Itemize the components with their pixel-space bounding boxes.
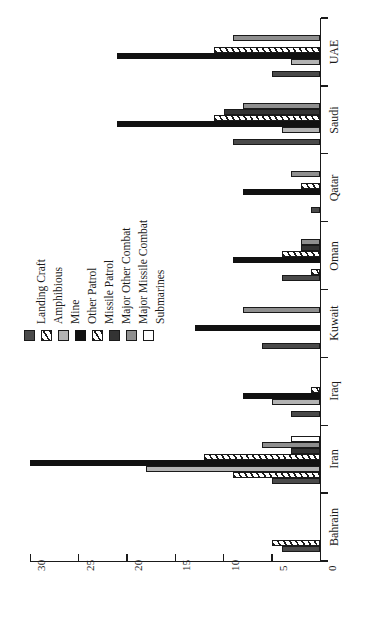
bar-saudi-mine	[282, 127, 321, 133]
bar-bahrain-amphibious	[272, 540, 320, 546]
category-label-uae: UAE	[326, 17, 342, 87]
value-tick-label: 10	[229, 560, 241, 571]
value-tick-label: 25	[84, 560, 96, 571]
category-label-oman: Oman	[326, 221, 342, 291]
value-tick	[126, 554, 127, 561]
bar-saudi-major-other-combat	[224, 109, 321, 115]
bar-oman-landing-craft	[282, 275, 321, 281]
bar-iran-major-other-combat	[291, 448, 320, 454]
bar-uae-major-missile-combat	[233, 35, 320, 41]
value-tick-label: 0	[326, 565, 338, 571]
bar-saudi-other-patrol	[117, 121, 320, 127]
chart-canvas: 302520151050 BahrainIranIraqKuwaitOmanQa…	[0, 0, 376, 626]
legend-label-missile-patrol: Missile Patrol	[103, 260, 115, 324]
bar-qatar-other-patrol	[243, 189, 320, 195]
value-tick	[78, 554, 79, 561]
bar-saudi-missile-patrol	[214, 115, 320, 121]
legend-label-submarines: Submarines	[154, 270, 166, 324]
value-tick-label: 15	[180, 560, 192, 571]
bar-bahrain-landing-craft	[282, 546, 321, 552]
value-tick	[30, 554, 31, 561]
bar-kuwait-major-missile-combat	[243, 307, 320, 313]
category-label-kuwait: Kuwait	[326, 288, 342, 358]
bar-iraq-mine	[272, 399, 320, 405]
bar-kuwait-landing-craft	[262, 343, 320, 349]
legend-swatch-major-missile-combat	[126, 330, 137, 341]
bar-oman-other-patrol	[233, 257, 320, 263]
bar-iraq-other-patrol	[243, 393, 320, 399]
value-tick-label: 20	[132, 560, 144, 571]
bar-oman-amphibious	[311, 269, 321, 275]
value-axis-line	[30, 561, 321, 562]
bar-qatar-missile-patrol	[301, 183, 320, 189]
bar-iran-other-patrol	[30, 460, 320, 466]
bar-iran-missile-patrol	[204, 454, 320, 460]
value-tick-label: 5	[277, 565, 289, 571]
bar-oman-missile-patrol	[282, 251, 321, 257]
legend-swatch-amphibious	[41, 330, 52, 341]
legend-label-major-other-combat: Major Other Combat	[120, 228, 132, 324]
bar-iran-mine	[146, 466, 320, 472]
bar-iran-submarines	[291, 436, 320, 442]
legend-label-mine: Mine	[69, 300, 81, 324]
legend-swatch-submarines	[143, 330, 154, 341]
bar-uae-mine	[291, 59, 320, 65]
legend-swatch-major-other-combat	[109, 330, 120, 341]
chart-legend: Landing CraftAmphibiousMineOther PatrolM…	[24, 222, 174, 352]
category-label-qatar: Qatar	[326, 153, 342, 223]
bar-iraq-missile-patrol	[311, 387, 321, 393]
legend-label-other-patrol: Other Patrol	[86, 267, 98, 324]
bar-uae-missile-patrol	[214, 47, 320, 53]
legend-swatch-missile-patrol	[92, 330, 103, 341]
bar-saudi-major-missile-combat	[243, 103, 320, 109]
bar-iran-major-missile-combat	[262, 442, 320, 448]
bar-kuwait-other-patrol	[195, 325, 321, 331]
category-label-saudi: Saudi	[326, 85, 342, 155]
legend-swatch-landing-craft	[24, 330, 35, 341]
bar-saudi-landing-craft	[233, 139, 320, 145]
bar-iran-amphibious	[233, 472, 320, 478]
legend-label-landing-craft: Landing Craft	[35, 259, 47, 324]
bar-uae-other-patrol	[117, 53, 320, 59]
value-tick	[223, 554, 224, 561]
legend-label-amphibious: Amphibious	[52, 267, 64, 324]
category-label-iraq: Iraq	[326, 356, 342, 426]
bar-iran-landing-craft	[272, 478, 320, 484]
bar-qatar-landing-craft	[311, 207, 321, 213]
legend-swatch-mine	[58, 330, 69, 341]
category-label-bahrain: Bahrain	[326, 492, 342, 562]
bar-uae-landing-craft	[272, 71, 320, 77]
bar-iraq-landing-craft	[291, 411, 320, 417]
bar-qatar-major-missile-combat	[291, 171, 320, 177]
legend-label-major-missile-combat: Major Missile Combat	[137, 220, 149, 324]
bar-oman-major-other-combat	[301, 245, 320, 251]
category-label-iran: Iran	[326, 424, 342, 494]
value-tick	[271, 554, 272, 561]
value-tick-label: 30	[35, 560, 47, 571]
legend-swatch-other-patrol	[75, 330, 86, 341]
value-tick	[175, 554, 176, 561]
bar-oman-major-missile-combat	[301, 239, 320, 245]
